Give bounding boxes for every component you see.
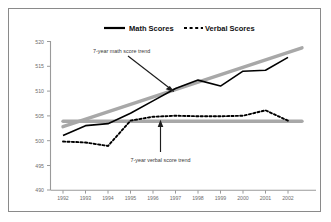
x-tick-label-1999: 1999 — [215, 195, 227, 201]
x-tick-label-1998: 1998 — [192, 195, 204, 201]
legend-label-verbal: Verbal Scores — [205, 24, 255, 33]
y-tick-label-495: 495 — [35, 163, 44, 169]
x-tick-label-1993: 1993 — [80, 195, 92, 201]
x-axis: 1992 1993 1994 1995 1996 1997 1998 1999 … — [51, 190, 317, 201]
x-tick-label-1995: 1995 — [125, 195, 137, 201]
x-tick-label-2002: 2002 — [282, 195, 294, 201]
series-math-trend-line — [63, 48, 302, 127]
x-tick-label-1997: 1997 — [170, 195, 182, 201]
x-tick-label-1996: 1996 — [147, 195, 159, 201]
y-tick-label-505: 505 — [35, 113, 44, 119]
math-trend-arrow-shaft — [128, 56, 172, 90]
y-tick-label-500: 500 — [35, 138, 44, 144]
y-tick-label-490: 490 — [35, 187, 44, 193]
math-trend-annotation-label: 7-year math score trend — [93, 48, 150, 54]
y-tick-label-510: 510 — [35, 88, 44, 94]
x-tick-label-2001: 2001 — [260, 195, 272, 201]
math-trend-annotation: 7-year math score trend — [93, 48, 175, 93]
legend-label-math: Math Scores — [129, 24, 174, 33]
series-math-scores-line — [63, 57, 288, 135]
chart-canvas: Math Scores Verbal Scores 520 515 510 50… — [0, 0, 331, 222]
x-tick-label-2000: 2000 — [237, 195, 249, 201]
verbal-trend-annotation: 7-year verbal score trend — [131, 120, 191, 163]
verbal-trend-annotation-label: 7-year verbal score trend — [131, 157, 191, 163]
y-axis: 520 515 510 505 500 495 490 — [35, 39, 50, 194]
chart-legend: Math Scores Verbal Scores — [104, 24, 255, 33]
x-tick-label-1992: 1992 — [57, 195, 69, 201]
x-tick-label-1994: 1994 — [102, 195, 114, 201]
chart-svg: Math Scores Verbal Scores 520 515 510 50… — [0, 0, 331, 222]
y-tick-label-520: 520 — [35, 39, 44, 45]
y-tick-label-515: 515 — [35, 63, 44, 69]
